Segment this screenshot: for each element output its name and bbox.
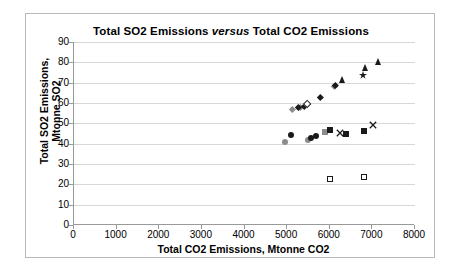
- gridline: [74, 164, 415, 165]
- y-axis-tick-label: 60: [43, 98, 69, 108]
- gridline: [74, 123, 415, 124]
- x-axis-tick-label: 0: [53, 230, 93, 240]
- y-axis-tick-label: 10: [43, 200, 69, 210]
- gridline: [74, 62, 415, 63]
- data-point-black-squares: [343, 131, 349, 137]
- gridline: [74, 103, 415, 104]
- y-axis-tick-mark: [69, 42, 73, 43]
- data-point-black-triangles: [375, 58, 381, 65]
- chart-title-emphasis: versus: [212, 25, 250, 37]
- y-axis-tick-label: 20: [43, 179, 69, 189]
- chart-title: Total SO2 Emissions versus Total CO2 Emi…: [26, 25, 436, 37]
- y-axis-tick-mark: [69, 164, 73, 165]
- data-point-black-circles: [313, 133, 319, 139]
- x-axis-tick-label: 2000: [138, 230, 178, 240]
- y-axis-tick-label: 50: [43, 118, 69, 128]
- x-axis-tick-mark: [414, 225, 415, 229]
- y-axis-tick-mark: [69, 144, 73, 145]
- gridline: [74, 144, 415, 145]
- y-axis-tick-mark: [69, 83, 73, 84]
- data-point-gray-diamonds: [297, 104, 304, 111]
- x-axis-tick-label: 6000: [309, 230, 349, 240]
- data-point-star-markers: [359, 65, 367, 73]
- x-axis-tick-label: 5000: [266, 230, 306, 240]
- x-axis-tick-mark: [158, 225, 159, 229]
- gridline: [74, 205, 415, 206]
- x-axis-tick-mark: [201, 225, 202, 229]
- y-axis-tick-label: 0: [43, 220, 69, 230]
- x-axis-tick-mark: [73, 225, 74, 229]
- data-point-black-diamonds: [317, 94, 324, 101]
- x-axis-tick-label: 8000: [394, 230, 434, 240]
- data-point-gray-squares: [322, 129, 328, 135]
- chart-title-tail: Total CO2 Emissions: [250, 25, 369, 37]
- plot-area: [73, 42, 414, 225]
- y-axis-tick-label: 30: [43, 159, 69, 169]
- data-point-gray-diamonds: [331, 83, 338, 90]
- x-axis-tick-mark: [116, 225, 117, 229]
- x-axis-tick-labels: 010002000300040005000600070008000: [73, 230, 414, 244]
- y-axis-tick-mark: [69, 205, 73, 206]
- x-axis-tick-label: 1000: [96, 230, 136, 240]
- data-point-black-triangles: [362, 64, 368, 71]
- y-axis-tick-label: 80: [43, 57, 69, 67]
- y-axis-tick-label: 90: [43, 37, 69, 47]
- y-axis-tick-mark: [69, 62, 73, 63]
- x-axis-tick-mark: [329, 225, 330, 229]
- data-point-black-diamonds: [295, 104, 302, 111]
- data-point-open-squares: [327, 176, 333, 182]
- data-point-black-circles: [308, 135, 314, 141]
- x-axis-tick-label: 7000: [351, 230, 391, 240]
- chart-title-main: Total SO2 Emissions: [93, 25, 212, 37]
- x-axis-tick-mark: [286, 225, 287, 229]
- data-point-gray-circles: [305, 137, 311, 143]
- x-axis-tick-label: 4000: [224, 230, 264, 240]
- x-axis-title: Total CO2 Emissions, Mtonne CO2: [73, 243, 414, 255]
- data-point-open-squares: [361, 174, 367, 180]
- gridline: [74, 42, 415, 43]
- y-axis-tick-mark: [69, 103, 73, 104]
- data-point-black-circles: [288, 132, 294, 138]
- x-axis-tick-mark: [244, 225, 245, 229]
- data-point-black-squares: [361, 128, 367, 134]
- y-axis-tick-mark: [69, 123, 73, 124]
- y-axis-tick-mark: [69, 184, 73, 185]
- chart-container: Total SO2 Emissions versus Total CO2 Emi…: [25, 13, 435, 258]
- x-axis-tick-label: 3000: [181, 230, 221, 240]
- data-point-gray-diamonds: [289, 106, 296, 113]
- data-point-x-markers: [336, 123, 344, 131]
- y-axis-tick-labels: 0102030405060708090: [39, 42, 69, 225]
- y-axis-tick-label: 70: [43, 78, 69, 88]
- gridline: [74, 83, 415, 84]
- y-axis-tick-label: 40: [43, 139, 69, 149]
- data-point-x-markers: [369, 115, 377, 123]
- x-axis-tick-mark: [371, 225, 372, 229]
- data-point-black-squares: [327, 127, 333, 133]
- gridline: [74, 184, 415, 185]
